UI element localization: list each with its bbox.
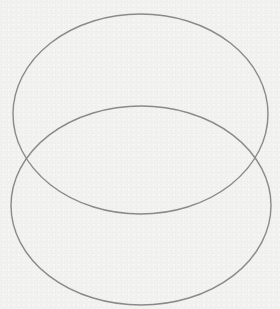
bottom-ellipse [11, 106, 271, 305]
top-ellipse [13, 14, 268, 214]
venn-diagram [0, 0, 280, 309]
diagram-canvas [0, 0, 280, 309]
